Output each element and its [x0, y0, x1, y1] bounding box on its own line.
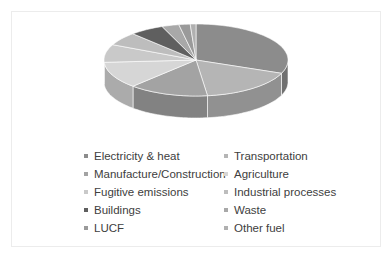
legend-item-lucf: LUCF [84, 221, 224, 235]
legend-swatch [224, 172, 228, 176]
legend-item-transportation: Transportation [224, 149, 334, 163]
chart-legend: Electricity & heat Transportation Manufa… [84, 149, 334, 235]
legend-swatch [84, 208, 88, 212]
legend-item-buildings: Buildings [84, 203, 224, 217]
legend-swatch [84, 226, 88, 230]
legend-swatch [224, 190, 228, 194]
legend-swatch [224, 226, 228, 230]
legend-item-fugitive: Fugitive emissions [84, 185, 224, 199]
legend-item-electricity: Electricity & heat [84, 149, 224, 163]
legend-swatch [84, 172, 88, 176]
pie-chart [0, 0, 392, 150]
legend-item-waste: Waste [224, 203, 334, 217]
legend-item-other-fuel: Other fuel [224, 221, 334, 235]
legend-swatch [84, 154, 88, 158]
legend-item-industrial: Industrial processes [224, 185, 334, 199]
legend-swatch [84, 190, 88, 194]
legend-item-manufacture: Manufacture/Construction [84, 167, 224, 181]
legend-swatch [224, 154, 228, 158]
legend-swatch [224, 208, 228, 212]
legend-item-agriculture: Agriculture [224, 167, 334, 181]
